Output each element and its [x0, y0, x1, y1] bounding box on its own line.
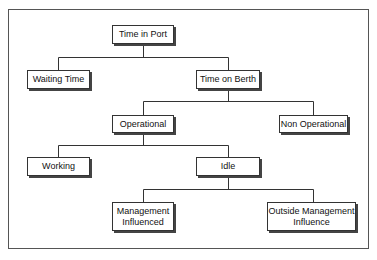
node-label-line2: Influence: [293, 217, 330, 228]
node-label: Waiting Time: [33, 74, 85, 85]
node-time-in-port: Time in Port: [112, 25, 174, 44]
node-label: Non Operational: [281, 119, 347, 130]
node-label: Idle: [221, 161, 236, 172]
node-working: Working: [27, 157, 90, 176]
node-label-line1: Management: [117, 206, 170, 217]
node-operational: Operational: [112, 115, 174, 133]
node-time-on-berth: Time on Berth: [196, 70, 260, 89]
node-label: Working: [42, 161, 75, 172]
node-label: Operational: [120, 119, 167, 130]
node-label-line2: Influenced: [122, 217, 164, 228]
node-label: Time in Port: [119, 29, 167, 40]
node-label-line1: Outside Management: [268, 206, 354, 217]
node-management-influenced: Management Influenced: [112, 202, 174, 231]
node-label: Time on Berth: [200, 74, 256, 85]
node-outside-management-influence: Outside Management Influence: [267, 202, 356, 231]
node-waiting-time: Waiting Time: [27, 70, 90, 89]
node-idle: Idle: [196, 157, 260, 176]
node-non-operational: Non Operational: [279, 115, 348, 133]
